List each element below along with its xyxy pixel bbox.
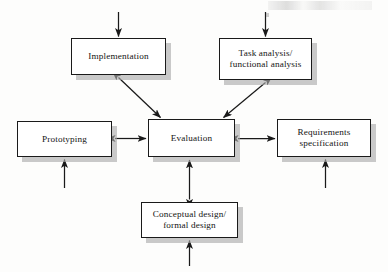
node-task-analysis-label: Task analysis/ functional analysis	[228, 48, 304, 69]
node-prototyping-label: Prototyping	[40, 134, 89, 145]
diagram-canvas: Implementation Task analysis/ functional…	[0, 0, 388, 272]
node-conceptual-design-label: Conceptual design/ formal design	[151, 209, 228, 230]
node-requirements-specification[interactable]: Requirements specification	[277, 119, 371, 157]
node-prototyping[interactable]: Prototyping	[17, 121, 112, 157]
node-evaluation[interactable]: Evaluation	[148, 119, 235, 157]
node-conceptual-design[interactable]: Conceptual design/ formal design	[141, 202, 238, 238]
node-implementation[interactable]: Implementation	[71, 38, 166, 75]
node-task-analysis[interactable]: Task analysis/ functional analysis	[219, 38, 312, 80]
connector-implementation-evaluation	[119, 78, 161, 118]
node-evaluation-label: Evaluation	[169, 133, 214, 144]
connector-task-analysis-evaluation	[224, 83, 266, 118]
node-requirements-specification-label: Requirements specification	[296, 127, 353, 148]
node-implementation-label: Implementation	[86, 51, 150, 62]
